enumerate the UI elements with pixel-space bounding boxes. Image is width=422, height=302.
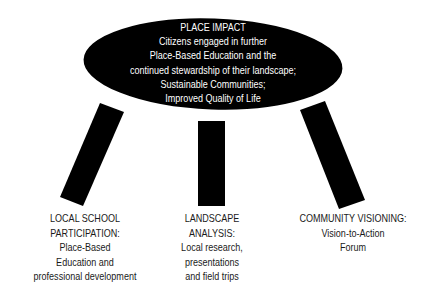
label-landscape-analysis: LANDSCAPE ANALYSIS: Local research, pres… [159, 211, 266, 284]
label-line: Education and [25, 255, 145, 270]
place-impact-line: Sustainable Communities; [101, 77, 325, 91]
place-impact-line: Place-Based Education and the [101, 48, 325, 62]
label-line: Forum [299, 240, 407, 255]
place-impact-line: Citizens engaged in further [101, 34, 325, 48]
label-local-school-participation: LOCAL SCHOOL PARTICIPATION: Place-Based … [25, 211, 145, 284]
label-line: Vision-to-Action [299, 226, 407, 241]
label-heading: LOCAL SCHOOL [25, 211, 145, 226]
place-impact-text: PLACE IMPACT Citizens engaged in further… [101, 20, 325, 105]
label-line: presentations [159, 255, 266, 270]
label-line: and field trips [159, 269, 266, 284]
label-heading: ANALYSIS: [159, 226, 266, 241]
three-legged-stool-diagram: PLACE IMPACT Citizens engaged in further… [0, 0, 422, 302]
leg-left [60, 103, 124, 206]
label-line: professional development [25, 269, 145, 284]
label-line: Local research, [159, 240, 266, 255]
label-line: Place-Based [25, 240, 145, 255]
place-impact-line: continued stewardship of their landscape… [101, 63, 325, 77]
label-heading: PARTICIPATION: [25, 226, 145, 241]
leg-right [300, 101, 365, 209]
label-heading: COMMUNITY VISIONING: [299, 211, 407, 226]
leg-middle [198, 121, 225, 206]
place-impact-line: Improved Quality of Life [101, 91, 325, 105]
label-community-visioning: COMMUNITY VISIONING: Vision-to-Action Fo… [299, 211, 407, 255]
place-impact-title: PLACE IMPACT [101, 20, 325, 34]
label-heading: LANDSCAPE [159, 211, 266, 226]
